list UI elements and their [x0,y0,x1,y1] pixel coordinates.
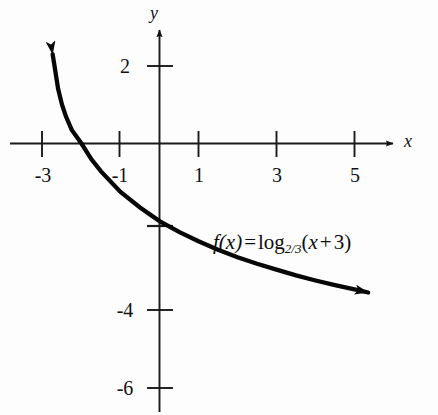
x-tick-label--1: -1 [105,165,135,185]
equation-arg-constant: 3 [334,230,345,254]
graph-figure: y x -3 -1 1 3 5 2 -4 -6 f(x)=log2/3(x+3) [0,0,438,415]
y-tick-label--4: -4 [110,300,140,320]
x-tick-label-1: 1 [189,165,209,185]
function-equation-annotation: f(x)=log2/3(x+3) [213,232,351,255]
equation-paren-close: ) [344,230,351,254]
x-tick-label-5: 5 [345,165,365,185]
equation-log-base: 2/3 [285,241,302,256]
equation-arg-variable: x [308,230,317,254]
x-tick-label--3: -3 [28,165,58,185]
y-axis-label: y [150,4,158,22]
function-curve [53,54,369,292]
equation-arg-plus: + [318,230,334,254]
x-tick-label-3: 3 [267,165,287,185]
y-tick-label-2: 2 [115,56,135,76]
x-axis-label: x [404,132,412,150]
equation-equals: = [242,230,258,254]
graph-canvas [0,0,438,415]
x-axis [10,131,393,157]
y-tick-label--6: -6 [110,378,140,398]
equation-f-of-x: f(x) [213,230,242,254]
equation-log: log [258,230,285,254]
